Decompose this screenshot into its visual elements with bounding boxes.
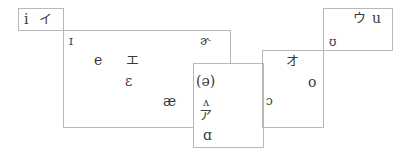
symbol-u-kana: ウ [353,11,366,25]
symbol-rhotic-schwa: ɚ [200,34,210,48]
symbol-near-close-front: ɪ [69,34,73,48]
symbol-i-kana: イ [39,12,52,26]
symbol-near-close-back: ʊ [329,35,336,49]
symbol-o: o [308,75,316,89]
symbol-e-kana: エ [126,53,139,67]
symbol-open-mid-back: ɔ [266,94,273,108]
symbol-e: e [94,53,102,67]
symbol-open-back: ɑ [203,128,212,142]
symbol-ash: æ [163,94,176,108]
symbol-u: u [372,11,381,25]
symbol-i: i [24,12,28,26]
symbol-o-kana: オ [286,54,299,68]
symbol-schwa: (ə) [196,74,215,88]
symbol-open-mid-front: ɛ [125,74,132,88]
symbol-a-kana: ア [199,108,212,122]
